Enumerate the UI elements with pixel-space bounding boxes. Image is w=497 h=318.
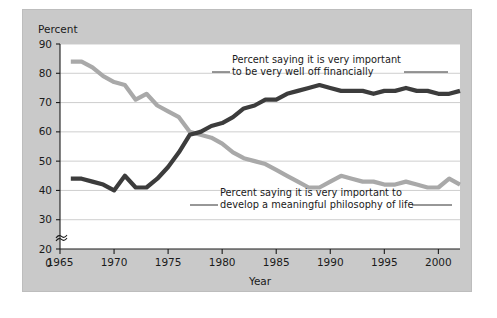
x-tick-label: 1990 bbox=[317, 256, 344, 268]
x-axis-ticks: 19651970197519801985199019952000 bbox=[47, 249, 452, 268]
x-tick-label: 1980 bbox=[209, 256, 236, 268]
annotation-gray-line2: develop a meaningful philosophy of life bbox=[220, 199, 413, 210]
x-tick-label: 1995 bbox=[371, 256, 398, 268]
annotation-dark-line2: to be very well off financially bbox=[232, 66, 374, 77]
y-axis-unit-label: Percent bbox=[38, 23, 78, 35]
x-tick-label: 1965 bbox=[47, 256, 74, 268]
x-tick-label: 1985 bbox=[263, 256, 290, 268]
x-tick-label: 1975 bbox=[155, 256, 182, 268]
y-tick-label: 90 bbox=[39, 38, 52, 50]
y-tick-label: 50 bbox=[39, 155, 52, 167]
y-tick-label: 30 bbox=[39, 213, 52, 225]
y-tick-label: 70 bbox=[39, 96, 52, 108]
y-tick-label: 40 bbox=[39, 184, 52, 196]
annotation-gray-line1: Percent saying it is very important to bbox=[220, 187, 402, 198]
y-tick-label: 20 bbox=[39, 243, 52, 255]
figure-container: 02030405060708090 1965197019751980198519… bbox=[0, 0, 497, 318]
x-tick-label: 2000 bbox=[425, 256, 452, 268]
x-axis-title: Year bbox=[248, 275, 272, 287]
y-tick-label: 60 bbox=[39, 125, 52, 137]
x-tick-label: 1970 bbox=[101, 256, 128, 268]
y-tick-label: 80 bbox=[39, 67, 52, 79]
y-axis-ticks: 02030405060708090 bbox=[39, 38, 60, 269]
annotation-dark-line1: Percent saying it is very important bbox=[232, 54, 401, 65]
line-chart: 02030405060708090 1965197019751980198519… bbox=[0, 0, 497, 318]
